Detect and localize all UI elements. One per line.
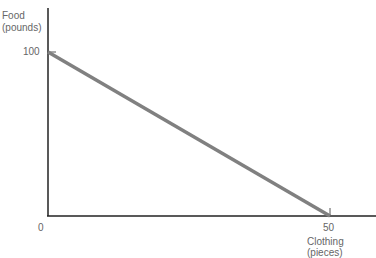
y-axis-label-line1: Food xyxy=(2,10,25,21)
ppf-line xyxy=(48,52,330,216)
origin-label: 0 xyxy=(38,222,44,233)
y-tick-label-100: 100 xyxy=(23,46,40,57)
x-axis-label: Clothing (pieces) xyxy=(307,236,376,258)
x-tick-label-50: 50 xyxy=(323,222,334,233)
y-axis-label-line2: (pounds) xyxy=(2,22,41,33)
